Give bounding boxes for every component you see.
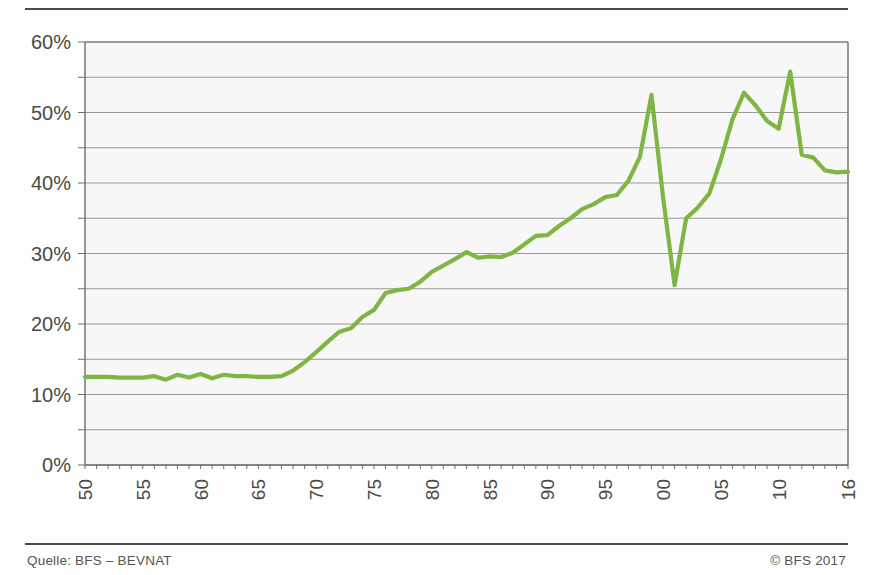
x-tick-label: 1990 xyxy=(537,479,558,500)
x-tick-label: 1950 xyxy=(75,479,96,500)
bottom-rule xyxy=(25,543,848,545)
x-tick-label: 1980 xyxy=(422,479,443,500)
y-tick-label: 20% xyxy=(31,313,71,335)
x-axis-tick-labels: 1950195519601965197019751980198519901995… xyxy=(75,479,859,500)
x-tick-label: 1970 xyxy=(306,479,327,500)
copyright-note: © BFS 2017 xyxy=(770,553,846,568)
x-tick-label: 2010 xyxy=(769,479,790,500)
y-tick-label: 50% xyxy=(31,102,71,124)
chart-plot-area: 0%10%20%30%40%50%60% 1950195519601965197… xyxy=(0,0,873,500)
x-tick-label: 2005 xyxy=(711,479,732,500)
x-tick-label: 1965 xyxy=(248,479,269,500)
y-tick-label: 30% xyxy=(31,243,71,265)
line-chart-svg: 0%10%20%30%40%50%60% 1950195519601965197… xyxy=(0,0,873,500)
figure-container: 0%10%20%30%40%50%60% 1950195519601965197… xyxy=(0,0,873,575)
x-tick-label: 1995 xyxy=(595,479,616,500)
y-tick-label: 10% xyxy=(31,384,71,406)
x-tick-label: 2016 xyxy=(838,479,859,500)
y-tickmarks-group xyxy=(78,42,85,465)
x-tick-label: 1975 xyxy=(364,479,385,500)
source-note: Quelle: BFS – BEVNAT xyxy=(27,553,172,568)
x-tick-label: 1960 xyxy=(191,479,212,500)
x-tick-label: 2000 xyxy=(653,479,674,500)
x-tick-label: 1955 xyxy=(133,479,154,500)
y-tick-label: 60% xyxy=(31,31,71,53)
y-axis-tick-labels: 0%10%20%30%40%50%60% xyxy=(31,31,71,476)
x-tick-label: 1985 xyxy=(480,479,501,500)
y-tick-label: 40% xyxy=(31,172,71,194)
y-tick-label: 0% xyxy=(42,454,71,476)
